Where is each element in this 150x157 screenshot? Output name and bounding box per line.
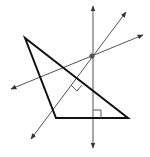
background bbox=[0, 0, 150, 157]
geometry-diagram bbox=[0, 0, 150, 157]
intersection-point bbox=[89, 53, 94, 58]
